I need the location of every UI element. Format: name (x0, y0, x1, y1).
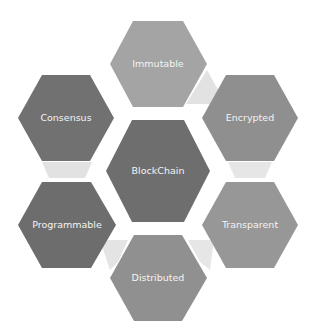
hex-label-distributed: Distributed (132, 272, 185, 283)
hex-label-programmable: Programmable (32, 219, 102, 230)
connector-encrypted-transparent (228, 162, 272, 178)
connector-consensus-programmable (42, 162, 92, 178)
hex-center-blockchain: BlockChain (106, 120, 210, 222)
hex-label-transparent: Transparent (221, 219, 279, 230)
hex-label-consensus: Consensus (40, 112, 91, 123)
hex-transparent: Transparent (202, 182, 298, 268)
hex-label-blockchain: BlockChain (132, 165, 185, 176)
hex-label-encrypted: Encrypted (226, 112, 274, 123)
hex-consensus: Consensus (18, 75, 114, 161)
hex-label-immutable: Immutable (132, 58, 184, 69)
blockchain-hexagon-diagram: BlockChain Immutable Encrypted Transpare… (0, 0, 315, 336)
hex-programmable: Programmable (18, 182, 116, 268)
